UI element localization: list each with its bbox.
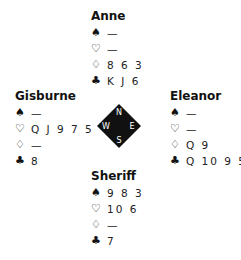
- compass-north: N: [116, 108, 122, 117]
- spade-cards: —: [107, 25, 120, 41]
- diamond-icon: ♢: [15, 137, 31, 153]
- heart-cards: Q J 9 7 5: [31, 121, 94, 137]
- spades-row: ♠9 8 3: [91, 185, 144, 201]
- diamonds-row: ♢8 6 3: [91, 57, 144, 73]
- clubs-row: ♣7: [91, 233, 144, 249]
- diamond-icon: ♢: [170, 137, 186, 153]
- diamond-icon: ♢: [91, 57, 107, 73]
- east-hand: Eleanor ♠— ♡— ♢Q 9 ♣Q 10 9 5: [170, 89, 241, 169]
- clubs-row: ♣8: [15, 153, 94, 169]
- heart-icon: ♡: [91, 201, 107, 217]
- diamond-cards: 8 6 3: [107, 57, 144, 73]
- club-icon: ♣: [91, 233, 107, 249]
- south-hand: Sheriff ♠9 8 3 ♡10 6 ♢— ♣7: [91, 169, 144, 249]
- diamond-icon: ♢: [91, 217, 107, 233]
- hearts-row: ♡—: [170, 121, 241, 137]
- player-name: Gisburne: [15, 89, 94, 105]
- clubs-row: ♣Q 10 9 5: [170, 153, 241, 169]
- diamonds-row: ♢—: [91, 217, 144, 233]
- club-cards: K J 6: [107, 73, 140, 89]
- spade-cards: —: [31, 105, 44, 121]
- heart-icon: ♡: [91, 41, 107, 57]
- hearts-row: ♡10 6: [91, 201, 144, 217]
- player-name: Sheriff: [91, 169, 144, 185]
- diamond-cards: Q 9: [186, 137, 210, 153]
- spades-row: ♠—: [91, 25, 144, 41]
- clubs-row: ♣K J 6: [91, 73, 144, 89]
- club-icon: ♣: [15, 153, 31, 169]
- club-icon: ♣: [91, 73, 107, 89]
- heart-icon: ♡: [15, 121, 31, 137]
- diamonds-row: ♢—: [15, 137, 94, 153]
- club-cards: Q 10 9 5: [186, 153, 241, 169]
- player-name: Anne: [91, 9, 144, 25]
- club-cards: 7: [107, 233, 116, 249]
- west-hand: Gisburne ♠— ♡Q J 9 7 5 ♢— ♣8: [15, 89, 94, 169]
- club-icon: ♣: [170, 153, 186, 169]
- compass-south: S: [116, 136, 121, 145]
- compass-icon: N E S W: [97, 104, 141, 148]
- hearts-row: ♡—: [91, 41, 144, 57]
- spade-icon: ♠: [91, 185, 107, 201]
- spade-icon: ♠: [170, 105, 186, 121]
- diamonds-row: ♢Q 9: [170, 137, 241, 153]
- heart-cards: 10 6: [107, 201, 138, 217]
- spades-row: ♠—: [15, 105, 94, 121]
- club-cards: 8: [31, 153, 40, 169]
- north-hand: Anne ♠— ♡— ♢8 6 3 ♣K J 6: [91, 9, 144, 89]
- spade-icon: ♠: [91, 25, 107, 41]
- heart-cards: —: [107, 41, 120, 57]
- spade-cards: 9 8 3: [107, 185, 144, 201]
- player-name: Eleanor: [170, 89, 241, 105]
- compass-east: E: [129, 122, 134, 131]
- heart-cards: —: [186, 121, 199, 137]
- spade-icon: ♠: [15, 105, 31, 121]
- diamond-cards: —: [107, 217, 120, 233]
- diamond-cards: —: [31, 137, 44, 153]
- spades-row: ♠—: [170, 105, 241, 121]
- heart-icon: ♡: [170, 121, 186, 137]
- spade-cards: —: [186, 105, 199, 121]
- compass-west: W: [102, 122, 110, 131]
- hearts-row: ♡Q J 9 7 5: [15, 121, 94, 137]
